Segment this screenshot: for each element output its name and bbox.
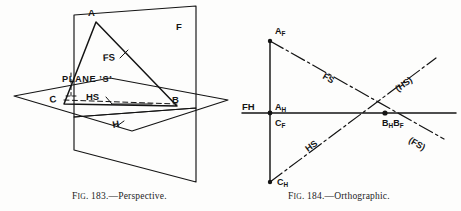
label-c-front: CF bbox=[275, 118, 286, 129]
label-trace-fs: FS bbox=[103, 51, 116, 63]
label-vertex-a: A bbox=[88, 7, 95, 18]
label-plane-f: F bbox=[176, 21, 182, 32]
point-c-horiz bbox=[268, 180, 272, 184]
oblique-plane-s-triangle bbox=[64, 22, 177, 106]
label-plane-s: PLANE ʼSʼ bbox=[62, 74, 112, 84]
label-trace-hs: HS bbox=[303, 138, 319, 153]
label-a-horiz: AH bbox=[275, 102, 287, 113]
hidden-trace-hs bbox=[64, 100, 177, 104]
caption-183-smallcaps: IG bbox=[77, 192, 85, 201]
sub-h: H bbox=[282, 106, 287, 113]
caption-fig-184: FIG. 184.—Orthographic. bbox=[288, 191, 390, 201]
figure-sheet: A F B C H FS HS PLANE ʼSʼ bbox=[0, 0, 461, 211]
caption-183-rest: . 183.—Perspective. bbox=[86, 191, 167, 201]
point-a-h-c-f bbox=[268, 111, 273, 116]
label-plane-h: H bbox=[111, 118, 120, 130]
sub-f: F bbox=[282, 30, 286, 37]
label-trace-fs: FS bbox=[321, 71, 336, 85]
sub-h: H bbox=[284, 181, 289, 188]
label-a-front: AF bbox=[275, 26, 286, 37]
caption-fig-183: FIG. 183.—Perspective. bbox=[72, 191, 167, 201]
label-ext-fs: (FS) bbox=[407, 135, 427, 152]
label-b-points: BHBF bbox=[382, 118, 404, 129]
sub-f: F bbox=[400, 122, 404, 129]
fig-183-drawing: A F B C H FS HS PLANE ʼSʼ bbox=[0, 0, 230, 190]
leader-hs bbox=[106, 97, 112, 104]
fig-184-drawing: AF FH AH CF CH BHBF FS HS (HS) (FS) bbox=[230, 0, 461, 190]
label-c-horiz: CH bbox=[277, 177, 289, 188]
caption-184-rest: . 184.—Orthographic. bbox=[302, 191, 390, 201]
point-b bbox=[382, 110, 387, 115]
label-vertex-b: B bbox=[172, 94, 179, 105]
label-ext-hs: (HS) bbox=[393, 75, 414, 94]
point-a-front bbox=[268, 39, 272, 43]
label-vertex-c: C bbox=[49, 93, 58, 105]
label-trace-hs: HS bbox=[86, 91, 99, 102]
caption-184-smallcaps: IG bbox=[293, 192, 301, 201]
trace-fs-line bbox=[270, 41, 444, 139]
label-ground-line: FH bbox=[242, 101, 255, 112]
sub-f: F bbox=[282, 122, 286, 129]
